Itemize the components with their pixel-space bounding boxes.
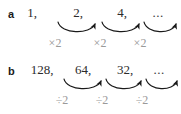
operator-b-0: ÷2: [56, 93, 69, 108]
operators-row-b: ÷2 ÷2 ÷2: [22, 93, 180, 111]
operator-b-1: ÷2: [96, 93, 109, 108]
operator-b-2: ÷2: [136, 93, 149, 108]
arrows-row-a: [0, 18, 181, 38]
operator-a-1: ×2: [94, 36, 107, 51]
sequence-row-a: a 1, 2, 4, ... ×2 ×2: [0, 0, 181, 57]
operators-row-a: ×2 ×2 ×2: [22, 36, 180, 54]
arrows-row-b: [0, 75, 181, 95]
operator-a-2: ×2: [134, 36, 147, 51]
sequence-row-b: b 128, 64, 32, ... ÷2: [0, 57, 181, 114]
sequence-pattern-figure: a 1, 2, 4, ... ×2 ×2: [0, 0, 181, 114]
operator-a-0: ×2: [49, 36, 62, 51]
